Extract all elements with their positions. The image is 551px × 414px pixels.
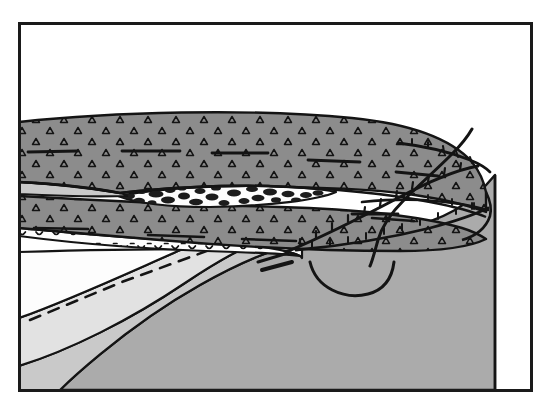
geological-cross-section-figure [0,0,551,414]
cross-section-canvas [0,0,551,414]
